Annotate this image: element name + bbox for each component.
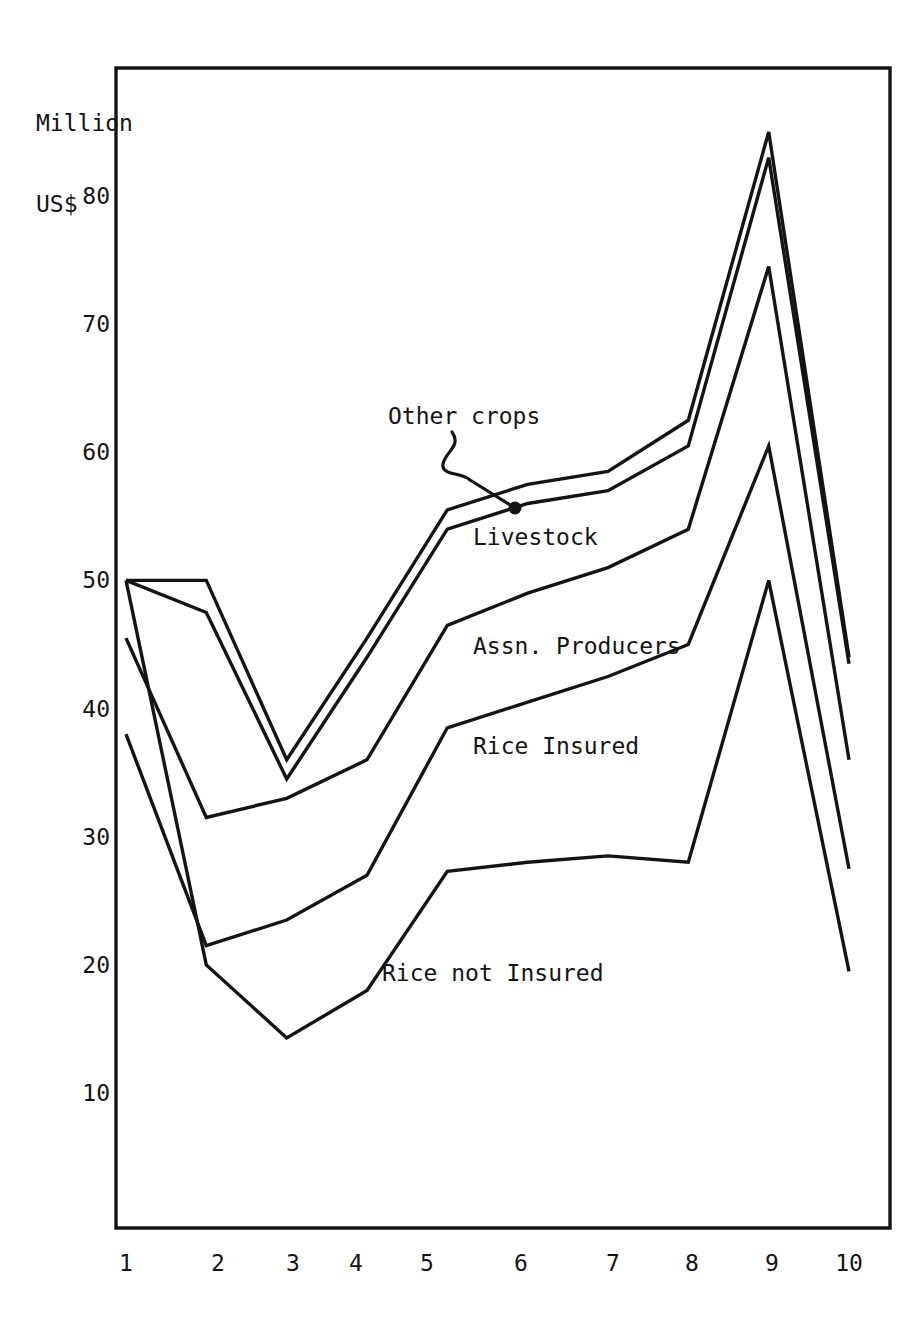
chart-series-lines	[126, 132, 849, 1038]
y-tick-label-80: 80	[58, 185, 110, 208]
series-label-rice-insured: Rice Insured	[473, 733, 639, 759]
x-tick-label-8: 8	[666, 1252, 718, 1275]
chart-figure: Million US$ 80 70 60 50 40 30 20 10 1 2 …	[0, 0, 922, 1328]
series-label-rice-not-insured: Rice not Insured	[382, 960, 604, 986]
x-tick-label-9: 9	[746, 1252, 798, 1275]
y-tick-label-70: 70	[58, 313, 110, 336]
x-tick-label-3: 3	[267, 1252, 319, 1275]
y-tick-label-50: 50	[58, 569, 110, 592]
x-tick-label-10: 10	[816, 1252, 882, 1275]
chart-canvas	[0, 0, 922, 1328]
annotation-leader-line	[443, 432, 522, 515]
x-tick-label-7: 7	[587, 1252, 639, 1275]
x-tick-label-2: 2	[192, 1252, 244, 1275]
y-tick-label-60: 60	[58, 441, 110, 464]
y-tick-label-10: 10	[58, 1082, 110, 1105]
x-tick-label-4: 4	[330, 1252, 382, 1275]
y-tick-label-40: 40	[58, 698, 110, 721]
series-line-rice-insured	[126, 446, 849, 946]
y-axis-unit-label: Million US$	[36, 56, 133, 272]
other-crops-leader	[443, 432, 512, 506]
other-crops-leader-dot	[509, 502, 522, 515]
x-tick-label-5: 5	[401, 1252, 453, 1275]
series-line-livestock	[126, 158, 849, 779]
y-tick-label-30: 30	[58, 826, 110, 849]
series-label-other-crops: Other crops	[388, 403, 540, 429]
x-tick-label-1: 1	[100, 1252, 152, 1275]
series-label-assn-producers: Assn. Producers	[473, 633, 681, 659]
series-label-livestock: Livestock	[473, 524, 598, 550]
series-line-other-crops	[126, 132, 849, 760]
x-tick-label-6: 6	[495, 1252, 547, 1275]
y-tick-label-20: 20	[58, 954, 110, 977]
y-axis-unit-line-1: Million	[36, 110, 133, 137]
